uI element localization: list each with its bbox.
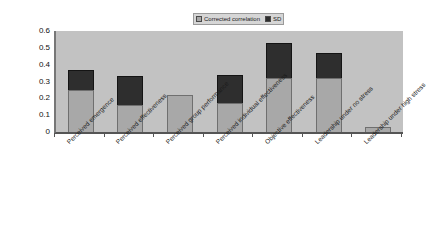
bar-segment-sd[interactable] xyxy=(117,76,143,105)
x-axis-tick-mark xyxy=(153,133,154,137)
bar-segment-sd[interactable] xyxy=(316,53,342,78)
y-axis-tick-label: 0.2 xyxy=(20,94,50,102)
y-axis-tick-label: 0.6 xyxy=(20,27,50,35)
y-axis-tick-label: 0 xyxy=(20,128,50,136)
x-axis-tick-mark xyxy=(54,133,55,137)
legend-entry-sd: SD xyxy=(265,16,281,23)
x-axis-tick-mark xyxy=(252,133,253,137)
y-axis-tick-label: 0.5 xyxy=(20,44,50,52)
x-axis-tick-mark xyxy=(351,133,352,137)
y-axis: 0.60.50.40.30.20.10 xyxy=(20,24,50,139)
x-axis-tick-mark xyxy=(302,133,303,137)
legend-swatch-corrected-correlation-icon xyxy=(196,16,202,22)
bar-segment-sd[interactable] xyxy=(266,43,292,78)
legend-label-sd: SD xyxy=(273,16,281,23)
x-axis-tick-mark xyxy=(401,133,402,137)
y-axis-tick-label: 0.3 xyxy=(20,78,50,86)
y-axis-tick-label: 0.4 xyxy=(20,61,50,69)
legend-label-corrected-correlation: Corrected correlation xyxy=(204,16,260,23)
y-axis-tick-label: 0.1 xyxy=(20,111,50,119)
chart-legend: Corrected correlation SD xyxy=(193,13,284,25)
bar-segment-sd[interactable] xyxy=(68,70,94,90)
x-axis-tick-mark xyxy=(104,133,105,137)
legend-swatch-sd-icon xyxy=(265,16,271,22)
x-axis-tick-mark xyxy=(203,133,204,137)
legend-entry-corrected-correlation: Corrected correlation xyxy=(196,16,260,23)
